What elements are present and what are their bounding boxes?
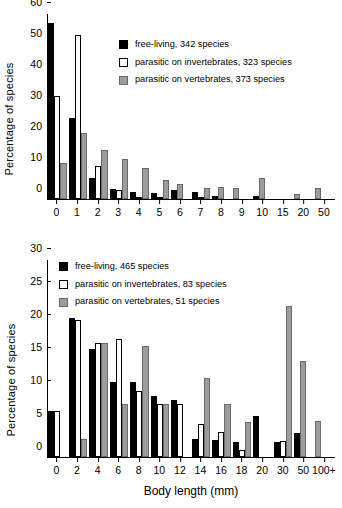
x-tick-top: 50 bbox=[318, 200, 330, 218]
bar-group bbox=[69, 14, 88, 199]
x-tick-bottom: 18 bbox=[236, 458, 248, 476]
x-axis-label-bottom: Body length (mm) bbox=[47, 484, 335, 498]
legend-swatch-icon bbox=[59, 262, 68, 271]
bar-vert bbox=[101, 150, 107, 199]
legend-swatch-icon bbox=[59, 298, 68, 307]
x-tick-top: 20 bbox=[297, 200, 309, 218]
x-tick-bottom: 14 bbox=[195, 458, 207, 476]
x-tick-top: 15 bbox=[277, 200, 289, 218]
x-tick-bottom: 50 bbox=[297, 458, 309, 476]
x-tick-bottom: 16 bbox=[215, 458, 227, 476]
legend-item: parasitic on invertebrates, 323 species bbox=[119, 58, 292, 68]
legend-label: free-living, 342 species bbox=[135, 40, 229, 50]
y-tick-top: 20 bbox=[30, 120, 47, 132]
legend-swatch-icon bbox=[59, 280, 68, 289]
bar-vert bbox=[315, 421, 321, 457]
y-axis-label-top: Percentage of species bbox=[3, 62, 15, 175]
x-tick-top: 3 bbox=[115, 200, 121, 218]
bar-group bbox=[253, 260, 272, 457]
bar-vert bbox=[122, 404, 128, 457]
x-tick-top: 8 bbox=[218, 200, 224, 218]
legend-item: parasitic on vertebrates, 51 species bbox=[59, 297, 227, 307]
bar-vert bbox=[122, 159, 128, 199]
bar-vert bbox=[218, 187, 224, 199]
x-tick-bottom: 0 bbox=[54, 458, 60, 476]
bar-vert bbox=[204, 378, 210, 457]
bar-group bbox=[294, 260, 313, 457]
bar-vert bbox=[177, 184, 183, 199]
x-tick-bottom: 4 bbox=[95, 458, 101, 476]
bar-group bbox=[274, 260, 293, 457]
y-tick-top: 60 bbox=[30, 0, 47, 8]
legend-swatch-icon bbox=[119, 40, 128, 49]
x-tick-top: 2 bbox=[95, 200, 101, 218]
y-tick-bottom: 0 bbox=[36, 440, 47, 452]
x-tick-bottom: 12 bbox=[174, 458, 186, 476]
y-axis-label-bottom: Percentage of species bbox=[5, 323, 17, 436]
x-tick-top: 9 bbox=[239, 200, 245, 218]
x-tick-bottom: 2 bbox=[74, 458, 80, 476]
bar-vert bbox=[224, 404, 230, 457]
bar-group bbox=[48, 14, 67, 199]
legend-top: free-living, 342 speciesparasitic on inv… bbox=[119, 40, 292, 93]
bar-vert bbox=[142, 346, 148, 457]
bar-group bbox=[315, 260, 334, 457]
x-tick-top: 5 bbox=[156, 200, 162, 218]
bar-vert bbox=[286, 306, 292, 457]
y-tick-bottom: 25 bbox=[30, 275, 47, 287]
x-tick-top: 0 bbox=[54, 200, 60, 218]
bar-inv bbox=[54, 411, 60, 457]
x-axis-line-top bbox=[47, 199, 335, 200]
y-tick-top: 10 bbox=[30, 151, 47, 163]
legend-label: parasitic on vertebrates, 51 species bbox=[75, 297, 220, 307]
x-tick-bottom: 10 bbox=[153, 458, 165, 476]
bar-inv bbox=[177, 404, 183, 457]
y-tick-top: 0 bbox=[36, 182, 47, 194]
bar-vert bbox=[300, 361, 306, 457]
bar-vert bbox=[233, 188, 239, 199]
y-tick-bottom: 30 bbox=[30, 242, 47, 254]
y-tick-bottom: 20 bbox=[30, 308, 47, 320]
legend-label: parasitic on invertebrates, 83 species bbox=[75, 280, 227, 290]
chart-panel-top: Percentage of species 0102030405060 0123… bbox=[0, 0, 342, 238]
bar-vert bbox=[245, 422, 251, 457]
x-tick-bottom: 30 bbox=[277, 458, 289, 476]
y-tick-bottom: 15 bbox=[30, 341, 47, 353]
bar-group bbox=[233, 260, 252, 457]
y-tick-top: 40 bbox=[30, 58, 47, 70]
bar-vert bbox=[81, 439, 87, 457]
x-tick-bottom: 6 bbox=[115, 458, 121, 476]
bar-group bbox=[315, 14, 334, 199]
legend-item: parasitic on invertebrates, 83 species bbox=[59, 280, 227, 290]
bar-group bbox=[89, 14, 108, 199]
y-tick-bottom: 10 bbox=[30, 374, 47, 386]
legend-label: free-living, 465 species bbox=[75, 262, 169, 272]
x-tick-top: 1 bbox=[74, 200, 80, 218]
bar-group bbox=[294, 14, 313, 199]
chart-panel-bottom: Percentage of species 051015202530 02468… bbox=[0, 252, 342, 508]
legend-swatch-icon bbox=[119, 58, 128, 67]
legend-label: parasitic on invertebrates, 323 species bbox=[135, 58, 292, 68]
bar-inv bbox=[75, 320, 81, 457]
x-tick-top: 10 bbox=[256, 200, 268, 218]
legend-item: free-living, 342 species bbox=[119, 40, 292, 50]
legend-swatch-icon bbox=[119, 76, 128, 85]
bar-vert bbox=[101, 343, 107, 457]
y-tick-top: 30 bbox=[30, 89, 47, 101]
bar-vert bbox=[60, 163, 66, 199]
x-tick-bottom: 20 bbox=[256, 458, 268, 476]
x-axis-line-bottom bbox=[47, 457, 335, 458]
bar-vert bbox=[163, 404, 169, 457]
legend-bottom: free-living, 465 speciesparasitic on inv… bbox=[59, 262, 227, 315]
legend-label: parasitic on vertebrates, 373 species bbox=[135, 75, 285, 85]
bar-vert bbox=[163, 180, 169, 199]
bar-vert bbox=[294, 194, 300, 199]
bar-free bbox=[253, 416, 259, 457]
bar-vert bbox=[81, 133, 87, 199]
bar-vert bbox=[142, 168, 148, 199]
legend-item: parasitic on vertebrates, 373 species bbox=[119, 75, 292, 85]
x-tick-top: 4 bbox=[136, 200, 142, 218]
x-tick-bottom: 8 bbox=[136, 458, 142, 476]
bar-vert bbox=[259, 178, 265, 199]
figure-two-panel-bar-charts: Percentage of species 0102030405060 0123… bbox=[0, 0, 342, 508]
